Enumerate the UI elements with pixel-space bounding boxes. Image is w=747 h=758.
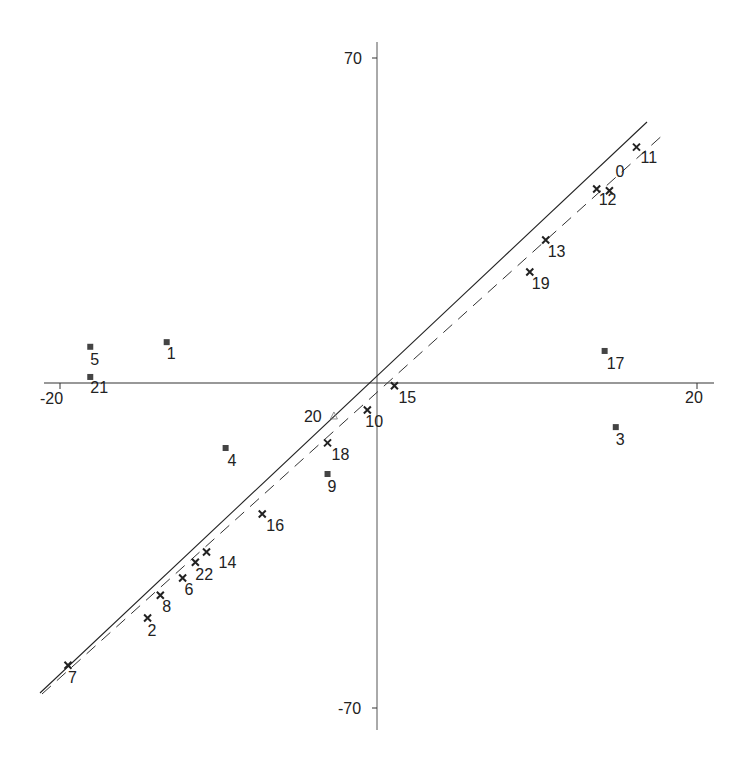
x-tick-label-min: -20 [40,390,63,407]
point-label: 10 [365,413,383,430]
cross-marker-icon [144,614,151,621]
point-label: 19 [532,275,550,292]
square-marker-icon [87,344,93,350]
point-label: 1 [167,345,176,362]
point-label: 8 [162,598,171,615]
cross-marker-icon [203,549,210,556]
fit-line-dashed [42,133,665,694]
square-marker-icon [613,424,619,430]
point-label: 9 [328,478,337,495]
triangle-marker-icon [330,412,337,419]
point-label: 15 [398,389,416,406]
point-label: 22 [195,566,213,583]
x-tick-label-max: 20 [685,389,703,406]
y-tick-label-min: -70 [338,700,361,717]
fit-line-solid [40,122,647,693]
scatter-chart: -20 20 70 -70 02678101112131415161819221… [0,0,747,758]
square-marker-icon [602,348,608,354]
y-tick-label-max: 70 [344,50,362,67]
cross-marker-icon [259,510,266,517]
point-label: 5 [90,351,99,368]
cross-marker-icon [64,662,71,669]
point-label: 13 [548,243,566,260]
point-label: 2 [148,622,157,639]
point-label: 21 [90,379,108,396]
data-points: 026781011121314151618192213459172120 [64,144,657,687]
point-label: 3 [616,431,625,448]
cross-marker-icon [192,559,199,566]
square-marker-icon [223,445,229,451]
point-label: 12 [599,191,617,208]
point-label: 14 [219,554,237,571]
point-label: 18 [332,446,350,463]
cross-marker-icon [324,439,331,446]
point-label: 16 [266,517,284,534]
point-label: 17 [607,355,625,372]
point-label: 4 [228,452,237,469]
point-label: 6 [185,581,194,598]
square-marker-icon [325,471,331,477]
cross-marker-icon [633,144,640,151]
point-label: 20 [304,408,322,425]
point-label: 11 [640,149,657,166]
point-label: 0 [615,163,624,180]
point-label: 7 [68,669,77,686]
